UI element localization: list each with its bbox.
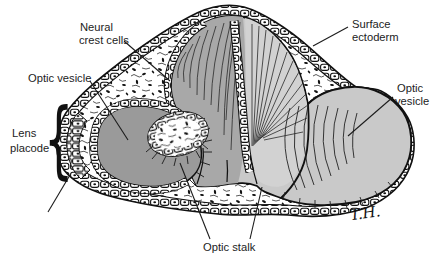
figure-panel: Neural crest cells Surface ectoderm Opti… (0, 0, 441, 259)
leader-surface-ectoderm (313, 27, 348, 46)
label-optic-vesicle-left: Optic vesicle (28, 72, 91, 84)
label-neural-crest-line2: crest cells (79, 34, 129, 46)
label-optic-stalk: Optic stalk (203, 241, 256, 253)
label-lens-placode-line2: placode (10, 142, 49, 154)
embryo-eye-diagram: Neural crest cells Surface ectoderm Opti… (0, 0, 441, 259)
label-optic-vesicle-right-line2: vesicle (395, 95, 429, 107)
artist-signature: T.H. (349, 202, 382, 224)
lens-placode-brace: { (44, 90, 73, 188)
label-optic-vesicle-right-line1: Optic (397, 82, 424, 94)
label-surface-ectoderm-line2: ectoderm (352, 31, 399, 43)
label-lens-placode-line1: Lens (12, 127, 37, 139)
label-neural-crest-line1: Neural (80, 21, 113, 33)
label-surface-ectoderm-line1: Surface (352, 18, 391, 30)
